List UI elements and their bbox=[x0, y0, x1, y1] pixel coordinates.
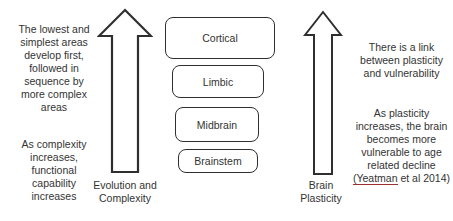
right-text-column: There is a link between plasticity and v… bbox=[350, 28, 453, 198]
box-limbic-label: Limbic bbox=[203, 76, 233, 88]
box-limbic: Limbic bbox=[172, 65, 264, 98]
right-paragraph-vulnerability: As plasticity increases, the brain becom… bbox=[350, 107, 453, 185]
up-arrow-plasticity-icon bbox=[303, 10, 343, 176]
right-paragraph-vulnerability-text: As plasticity increases, the brain becom… bbox=[356, 107, 448, 171]
box-cortical: Cortical bbox=[165, 17, 275, 59]
left-arrow-label: Evolution and Complexity bbox=[76, 179, 174, 205]
box-midbrain-label: Midbrain bbox=[197, 119, 237, 131]
box-cortical-label: Cortical bbox=[202, 32, 238, 44]
brain-development-diagram: The lowest and simplest areas develop fi… bbox=[0, 0, 453, 221]
right-paragraph-link: There is a link between plasticity and v… bbox=[350, 41, 453, 80]
citation-author-underlined: (Yeatman bbox=[353, 172, 398, 185]
right-arrow-label: Brain Plasticity bbox=[289, 179, 353, 205]
box-brainstem-label: Brainstem bbox=[194, 155, 241, 167]
box-brainstem: Brainstem bbox=[178, 149, 258, 173]
up-arrow-evolution-icon bbox=[97, 8, 153, 174]
citation-rest: et al 2014) bbox=[398, 172, 451, 184]
box-midbrain: Midbrain bbox=[175, 107, 259, 142]
left-paragraph-development-order: The lowest and simplest areas develop fi… bbox=[6, 23, 102, 114]
